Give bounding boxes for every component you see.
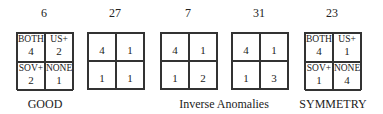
- cell: 1: [189, 33, 217, 61]
- cell: 3: [260, 61, 288, 89]
- caption-good: GOOD: [16, 97, 74, 112]
- payoff-matrix: BOTH4 US+1 SOV+1 NONE4: [304, 32, 362, 90]
- cell: 1: [260, 33, 288, 61]
- payoff-matrix: 4 1 1 1: [87, 32, 145, 90]
- cell-sov-plus: SOV+2: [17, 62, 45, 91]
- cell-none: NONE1: [45, 62, 73, 91]
- matrix-number: 7: [159, 6, 217, 21]
- cell: 1: [88, 61, 116, 89]
- cell-us-plus: US+1: [333, 33, 361, 62]
- matrix-number: 6: [15, 6, 73, 21]
- cell-none: NONE4: [333, 62, 361, 91]
- caption-symmetry: SYMMETRY: [290, 97, 376, 112]
- payoff-matrix: 4 1 1 3: [231, 32, 289, 90]
- matrix-number: 27: [86, 6, 144, 21]
- cell-both: BOTH4: [305, 33, 333, 62]
- cell: 1: [116, 33, 144, 61]
- cell: 2: [189, 61, 217, 89]
- cell-us-plus: US+2: [45, 33, 73, 62]
- cell: 1: [232, 61, 260, 89]
- matrix-number: 31: [230, 6, 288, 21]
- cell: 4: [88, 33, 116, 61]
- cell: 1: [161, 61, 189, 89]
- cell: 4: [232, 33, 260, 61]
- matrix-number: 23: [303, 6, 361, 21]
- caption-inverse-anomalies: Inverse Anomalies: [160, 97, 288, 112]
- cell-both: BOTH4: [17, 33, 45, 62]
- cell: 4: [161, 33, 189, 61]
- cell-sov-plus: SOV+1: [305, 62, 333, 91]
- payoff-matrix: BOTH4 US+2 SOV+2 NONE1: [16, 32, 74, 90]
- payoff-matrix: 4 1 1 2: [160, 32, 218, 90]
- cell: 1: [116, 61, 144, 89]
